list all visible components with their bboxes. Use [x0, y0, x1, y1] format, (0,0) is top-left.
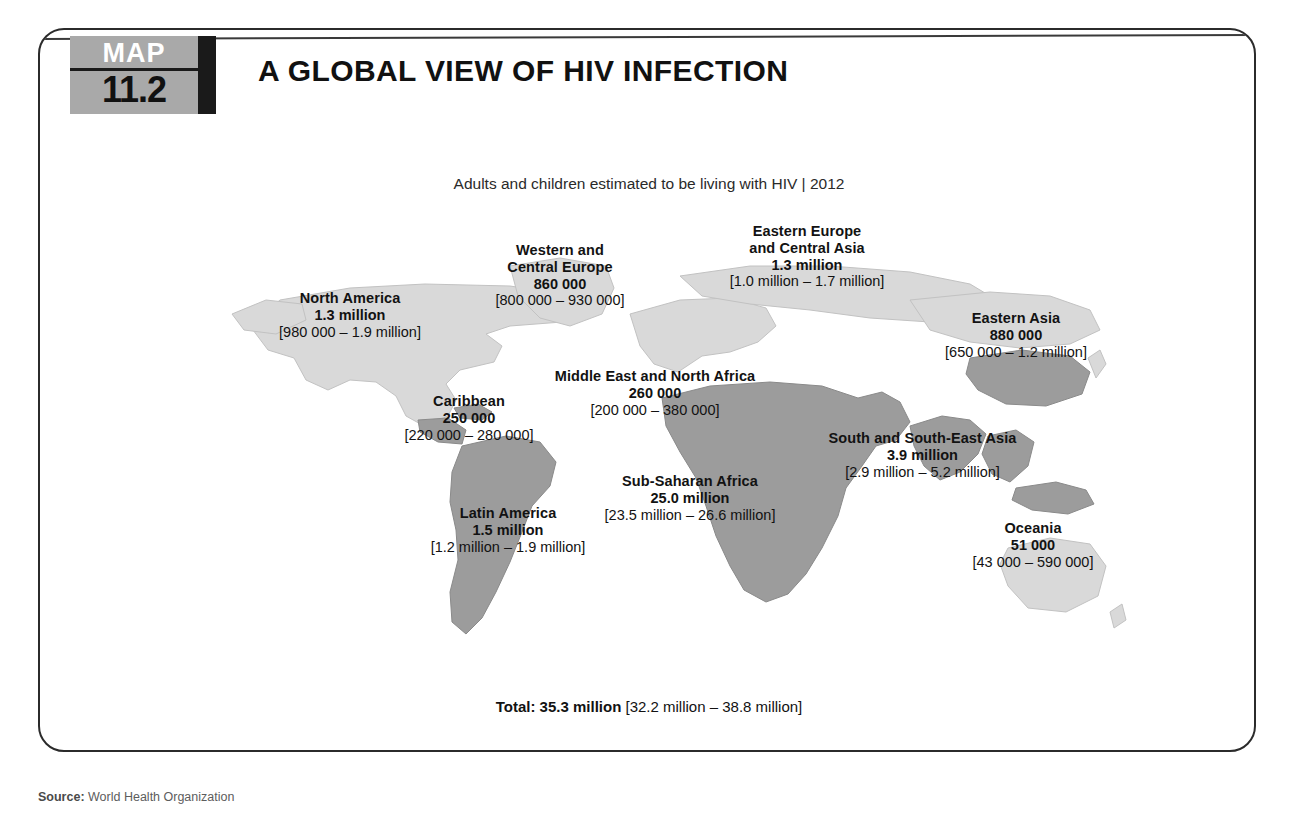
badge-word-map: MAP [70, 38, 198, 68]
region-value: 25.0 million [560, 490, 820, 507]
map-number-badge: MAP 11.2 [70, 36, 216, 114]
region-callout-middle-east-north-africa: Middle East and North Africa 260 000 [20… [510, 368, 800, 418]
region-range: [43 000 – 590 000] [918, 554, 1148, 571]
region-value: 1.3 million [220, 307, 480, 324]
region-value: 1.3 million [682, 257, 932, 274]
region-callout-western-central-europe: Western and Central Europe 860 000 [800 … [440, 242, 680, 309]
map-subtitle: Adults and children estimated to be livi… [40, 175, 1256, 193]
header-divider [40, 34, 1256, 40]
total-line: Total: 35.3 million [32.2 million – 38.8… [40, 698, 1256, 715]
region-name: Oceania [918, 520, 1148, 537]
region-range: [23.5 million – 26.6 million] [560, 507, 820, 524]
region-value: 51 000 [918, 537, 1148, 554]
total-range: [32.2 million – 38.8 million] [625, 698, 802, 715]
region-name: South and South-East Asia [785, 430, 1060, 447]
source-text: World Health Organization [88, 790, 234, 804]
region-range: [650 000 – 1.2 million] [896, 344, 1136, 361]
region-range: [200 000 – 380 000] [510, 402, 800, 419]
region-callout-sub-saharan-africa: Sub-Saharan Africa 25.0 million [23.5 mi… [560, 473, 820, 523]
region-callout-south-southeast-asia: South and South-East Asia 3.9 million [2… [785, 430, 1060, 480]
region-range: [2.9 million – 5.2 million] [785, 464, 1060, 481]
region-name: Middle East and North Africa [510, 368, 800, 385]
map-figure-card: MAP 11.2 A GLOBAL VIEW OF HIV INFECTION … [38, 28, 1256, 752]
region-name: Eastern Asia [896, 310, 1136, 327]
total-label: Total: 35.3 million [496, 698, 622, 715]
region-value: 880 000 [896, 327, 1136, 344]
region-name: Western and [440, 242, 680, 259]
region-range: [980 000 – 1.9 million] [220, 324, 480, 341]
region-callout-eastern-asia: Eastern Asia 880 000 [650 000 – 1.2 mill… [896, 310, 1136, 360]
region-value: 1.5 million [388, 522, 628, 539]
badge-side-bar [198, 36, 216, 114]
badge-number: 11.2 [70, 68, 198, 112]
region-callout-oceania: Oceania 51 000 [43 000 – 590 000] [918, 520, 1148, 570]
region-range: [1.0 million – 1.7 million] [682, 273, 932, 290]
region-name-line2: Central Europe [440, 259, 680, 276]
page-title: A GLOBAL VIEW OF HIV INFECTION [258, 54, 788, 88]
region-name: Sub-Saharan Africa [560, 473, 820, 490]
region-range: [800 000 – 930 000] [440, 292, 680, 309]
source-label: Source: [38, 790, 85, 804]
region-value: 860 000 [440, 276, 680, 293]
region-name: Eastern Europe [682, 223, 932, 240]
source-credit: Source: World Health Organization [38, 790, 1238, 804]
region-callout-eastern-europe-central-asia: Eastern Europe and Central Asia 1.3 mill… [682, 223, 932, 290]
region-range: [1.2 million – 1.9 million] [388, 539, 628, 556]
region-name-line2: and Central Asia [682, 240, 932, 257]
region-range: [220 000 – 280 000] [354, 427, 584, 444]
region-value: 3.9 million [785, 447, 1060, 464]
region-value: 260 000 [510, 385, 800, 402]
